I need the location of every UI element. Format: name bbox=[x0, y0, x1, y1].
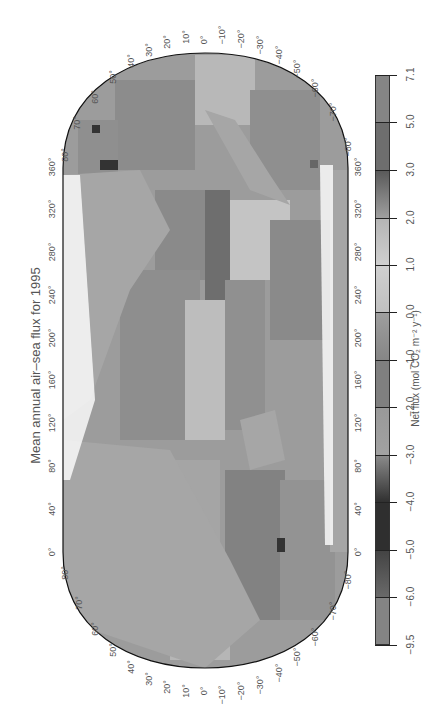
colorbar-tick bbox=[375, 75, 397, 76]
lon-label-right: 360° bbox=[353, 152, 363, 182]
lon-label-right: 40° bbox=[353, 494, 363, 524]
colorbar-axis-label: Net flux (mol CO₂ m⁻² y⁻¹) bbox=[410, 284, 421, 454]
lat-label-top: 70° bbox=[72, 108, 82, 138]
lon-label-left: 0° bbox=[47, 537, 57, 567]
lat-label-top: −70° bbox=[328, 97, 338, 127]
colorbar-tick bbox=[375, 170, 397, 171]
colorbar-tick bbox=[375, 218, 397, 219]
lon-label-left: 360° bbox=[47, 152, 57, 182]
lat-label-top: 80° bbox=[60, 140, 70, 170]
lat-label-top: 40° bbox=[126, 46, 136, 76]
lon-label-right: 200° bbox=[353, 323, 363, 353]
lat-label-bottom: 30° bbox=[144, 664, 154, 694]
lon-label-right: 0° bbox=[353, 537, 363, 567]
colorbar-tick bbox=[375, 502, 397, 503]
lat-label-bottom: −50° bbox=[292, 642, 302, 672]
lon-label-right: 240° bbox=[353, 280, 363, 310]
lat-label-top: 60° bbox=[90, 82, 100, 112]
colorbar-label: −4.0 bbox=[405, 484, 416, 520]
colorbar-label: −5.0 bbox=[405, 532, 416, 568]
lat-label-bottom: −80° bbox=[343, 565, 353, 595]
lat-label-bottom: −70° bbox=[328, 596, 338, 626]
lat-label-top: −10° bbox=[217, 20, 227, 50]
lat-label-bottom: −40° bbox=[274, 658, 284, 688]
lat-label-bottom: −30° bbox=[255, 670, 265, 700]
colorbar-tick bbox=[375, 312, 397, 313]
colorbar-tick bbox=[375, 360, 397, 361]
lat-label-top: 20° bbox=[162, 27, 172, 57]
lat-label-top: 10° bbox=[181, 22, 191, 52]
lat-label-bottom: 80° bbox=[60, 558, 70, 588]
lat-label-top: −50° bbox=[292, 54, 302, 84]
lon-label-left: 200° bbox=[47, 323, 57, 353]
colorbar-label: −9.5 bbox=[405, 627, 416, 663]
colorbar-label: 5.0 bbox=[405, 104, 416, 140]
lat-label-top: −30° bbox=[255, 30, 265, 60]
lon-label-left: 280° bbox=[47, 237, 57, 267]
colorbar-tick bbox=[375, 122, 397, 123]
colorbar-tick bbox=[375, 455, 397, 456]
lon-label-left: 40° bbox=[47, 494, 57, 524]
lat-label-bottom: 10° bbox=[181, 676, 191, 706]
lat-label-top: 0° bbox=[199, 25, 209, 55]
lat-label-bottom: 20° bbox=[162, 672, 172, 702]
lon-label-right: 320° bbox=[353, 194, 363, 224]
lon-label-right: 80° bbox=[353, 451, 363, 481]
lat-label-top: −20° bbox=[236, 24, 246, 54]
lat-label-top: −80° bbox=[343, 132, 353, 162]
lat-label-bottom: 50° bbox=[108, 635, 118, 665]
lon-label-left: 160° bbox=[47, 365, 57, 395]
lon-label-left: 80° bbox=[47, 451, 57, 481]
colorbar-label: −6.0 bbox=[405, 579, 416, 615]
colorbar-tick bbox=[375, 407, 397, 408]
colorbar-tick bbox=[375, 645, 397, 646]
colorbar-label: 2.0 bbox=[405, 200, 416, 236]
lon-label-right: 120° bbox=[353, 408, 363, 438]
colorbar-label: 1.0 bbox=[405, 247, 416, 283]
lat-label-bottom: −10° bbox=[217, 680, 227, 710]
lat-label-top: 50° bbox=[108, 62, 118, 92]
colorbar-tick bbox=[375, 597, 397, 598]
colorbar-tick bbox=[375, 550, 397, 551]
lon-label-left: 120° bbox=[47, 408, 57, 438]
colorbar-label: 7.1 bbox=[405, 57, 416, 93]
colorbar-label: 3.0 bbox=[405, 152, 416, 188]
lat-label-bottom: 60° bbox=[90, 614, 100, 644]
lon-label-left: 320° bbox=[47, 194, 57, 224]
lat-label-bottom: −20° bbox=[236, 676, 246, 706]
lat-label-bottom: 70° bbox=[74, 588, 84, 618]
lat-label-bottom: 40° bbox=[126, 652, 136, 682]
lon-label-right: 160° bbox=[353, 365, 363, 395]
lat-label-bottom: −60° bbox=[310, 622, 320, 652]
lat-label-top: 30° bbox=[144, 35, 154, 65]
lat-label-top: −60° bbox=[310, 73, 320, 103]
lon-label-left: 240° bbox=[47, 280, 57, 310]
colorbar-tick bbox=[375, 265, 397, 266]
lon-label-right: 280° bbox=[353, 237, 363, 267]
lat-label-bottom: 0° bbox=[199, 676, 209, 706]
lat-label-top: −40° bbox=[274, 40, 284, 70]
